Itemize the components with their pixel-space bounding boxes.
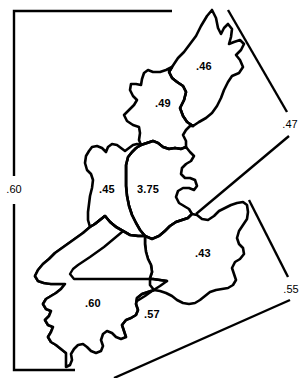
region-label-west-central: .45 (99, 183, 115, 195)
region-label-south-east: .43 (195, 247, 211, 259)
measure-label-upper-right: .47 (282, 118, 297, 130)
measure-label-left-bracket: .60 (6, 183, 21, 195)
region-label-south-central: .57 (144, 308, 160, 320)
lower-right-measure-line-upper (249, 200, 288, 277)
region-label-north-east: .46 (196, 60, 212, 72)
measure-label-lower-right: .55 (283, 283, 298, 295)
region-label-south-west: .60 (85, 297, 101, 309)
region-label-center: 3.75 (137, 183, 159, 195)
region-map-figure: .46 .49 .45 3.75 .43 .60 .57 .60 .47 .55 (0, 0, 308, 378)
lower-right-measure-line-lower (114, 300, 290, 378)
region-outline-south-central (35, 216, 154, 367)
region-label-north-central: .49 (155, 97, 171, 109)
